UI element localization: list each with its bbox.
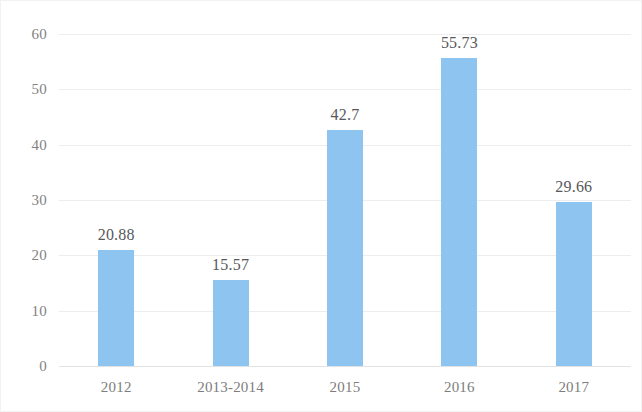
- bar-group: 20.882012: [59, 1, 173, 412]
- bar-value-label: 42.7: [331, 106, 360, 124]
- y-axis-tick-label: 0: [39, 358, 47, 375]
- bar[interactable]: [441, 58, 477, 366]
- bar-value-label: 15.57: [212, 256, 249, 274]
- x-axis-category-label: 2013-2014: [197, 379, 264, 396]
- bar-group: 15.572013-2014: [173, 1, 287, 412]
- y-axis-tick-label: 50: [32, 81, 47, 98]
- bar[interactable]: [556, 202, 592, 366]
- bar-chart: 0102030405060 20.88201215.572013-201442.…: [0, 0, 642, 412]
- x-axis-category-label: 2015: [330, 379, 361, 396]
- x-axis-category-label: 2017: [558, 379, 589, 396]
- y-axis-tick-label: 60: [32, 26, 47, 43]
- x-axis-category-label: 2012: [101, 379, 132, 396]
- bar-group: 42.72015: [288, 1, 402, 412]
- y-axis-tick-label: 30: [32, 192, 47, 209]
- bar-value-label: 29.66: [555, 178, 592, 196]
- bar-value-label: 55.73: [441, 34, 478, 52]
- bar[interactable]: [213, 280, 249, 366]
- y-axis-tick-label: 10: [32, 302, 47, 319]
- y-axis-tick-label: 20: [32, 247, 47, 264]
- bar-group: 29.662017: [517, 1, 631, 412]
- x-axis-category-label: 2016: [444, 379, 475, 396]
- y-axis: 0102030405060: [1, 1, 59, 412]
- bar[interactable]: [327, 130, 363, 366]
- bar-value-label: 20.88: [98, 226, 135, 244]
- bar[interactable]: [98, 250, 134, 366]
- bar-group: 55.732016: [402, 1, 516, 412]
- bars-layer: 20.88201215.572013-201442.7201555.732016…: [59, 1, 631, 412]
- y-axis-tick-label: 40: [32, 136, 47, 153]
